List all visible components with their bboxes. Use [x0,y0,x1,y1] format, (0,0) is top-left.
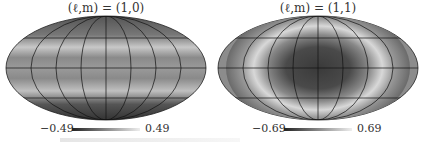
caption-fragment [60,138,240,142]
mollweide-map [5,14,207,122]
mollweide-map [217,14,419,122]
panel-l1-m0: (ℓ,m) = (1,0) [0,0,212,142]
colorbar-gradient [284,128,352,131]
colorbar-min: −0.69 [252,122,286,135]
colorbar: −0.49 0.49 [0,122,212,136]
colorbar-min: −0.49 [40,122,74,135]
colorbar-max: 0.69 [357,122,382,135]
colorbar: −0.69 0.69 [212,122,424,136]
colorbar-max: 0.49 [145,122,170,135]
colorbar-gradient [72,128,140,131]
panel-l1-m1: (ℓ,m) = (1,1) −0.69 [212,0,424,142]
